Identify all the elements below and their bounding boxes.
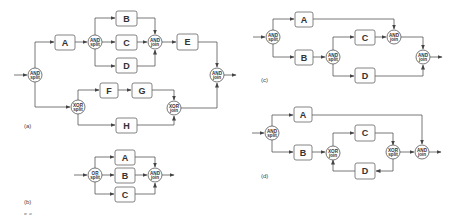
edge xyxy=(375,133,393,145)
task-b-B: B xyxy=(115,168,135,183)
edge xyxy=(78,114,115,125)
task-a-B: B xyxy=(116,11,137,26)
task-label: E xyxy=(184,37,190,47)
edge xyxy=(401,37,423,49)
edge xyxy=(313,19,394,29)
task-label: A xyxy=(301,15,308,25)
task-d-A: A xyxy=(294,107,312,122)
gateway-xor-split: XORsplit xyxy=(386,145,400,159)
gateway-and-join: ANDjoin xyxy=(387,30,401,44)
edge xyxy=(95,157,114,168)
task-c-C: C xyxy=(355,30,375,45)
gateway-role: split xyxy=(30,75,40,80)
task-c-D: D xyxy=(355,68,375,83)
edge xyxy=(375,65,423,76)
gateway-role: split xyxy=(388,152,398,157)
task-b-C: C xyxy=(115,187,135,202)
gateway-and-join: ANDjoin xyxy=(415,145,429,159)
gateway-xor-split: XORsplit xyxy=(71,100,85,114)
panel-b: A B C ORsplit ANDjoin (b) xyxy=(24,150,174,205)
edge xyxy=(35,82,70,107)
edge xyxy=(333,160,355,171)
edge xyxy=(333,64,354,76)
gateway-or-split: ORsplit xyxy=(88,168,102,182)
task-d-D: D xyxy=(355,163,375,179)
edge xyxy=(135,183,155,194)
edge xyxy=(137,50,155,66)
task-label: F xyxy=(106,86,112,96)
task-label: D xyxy=(362,71,369,81)
task-a-G: G xyxy=(132,83,152,98)
gateway-role: split xyxy=(73,107,83,112)
edge xyxy=(135,157,155,167)
edge xyxy=(273,19,294,30)
task-a-C: C xyxy=(116,35,137,50)
gateway-and-join: ANDjoin xyxy=(210,68,224,82)
task-label: H xyxy=(123,121,130,131)
edge xyxy=(137,18,155,34)
task-a-E: E xyxy=(177,34,198,50)
panel-label-c: (c) xyxy=(261,77,268,83)
gateway-role: join xyxy=(389,37,398,42)
gateway-and-join: ANDjoin xyxy=(416,50,430,64)
edge xyxy=(272,140,293,152)
gateway-role: split xyxy=(90,175,100,180)
gateway-and-split: ANDsplit xyxy=(28,68,42,82)
panel-label-a: (a) xyxy=(24,123,31,129)
gateway-role: split xyxy=(267,133,277,138)
task-a-A: A xyxy=(55,35,75,50)
workflow-patterns-figure: A B C D E F G H ANDsplit ANDsplit ANDjoi… xyxy=(0,0,449,215)
gateway-xor-join: XORjoin xyxy=(326,146,340,160)
gateway-and-join: ANDjoin xyxy=(148,35,162,49)
task-label: D xyxy=(362,166,369,176)
task-d-B: B xyxy=(294,145,312,160)
task-a-H: H xyxy=(116,118,137,133)
task-label: B xyxy=(301,53,308,63)
task-a-D: D xyxy=(116,58,137,73)
gateway-role: join xyxy=(212,75,221,80)
task-c-A: A xyxy=(295,12,313,27)
edges-c xyxy=(253,19,442,76)
edge xyxy=(181,83,217,108)
edge xyxy=(273,44,294,57)
gateway-xor-join: XORjoin xyxy=(167,101,181,115)
task-label: C xyxy=(123,38,130,48)
task-label: B xyxy=(122,171,129,181)
task-label: A xyxy=(62,38,69,48)
edge xyxy=(198,42,217,67)
panel-c: A B C D ANDsplit ANDsplit ANDjoin ANDjoi… xyxy=(253,12,442,83)
gateway-role: join xyxy=(150,175,159,180)
task-label: C xyxy=(122,190,129,200)
edge xyxy=(152,90,174,100)
gateway-role: split xyxy=(268,37,278,42)
edge xyxy=(95,182,114,194)
task-label: B xyxy=(123,14,130,24)
task-label: C xyxy=(362,128,369,138)
gateway-role: join xyxy=(169,108,178,113)
task-label: G xyxy=(138,86,145,96)
gateway-role: join xyxy=(150,42,159,47)
edge xyxy=(35,42,54,68)
panel-a: A B C D E F G H ANDsplit ANDsplit ANDjoi… xyxy=(14,11,236,133)
task-label: A xyxy=(122,153,129,163)
gateway-and-split: ANDsplit xyxy=(266,30,280,44)
edge xyxy=(137,116,174,125)
task-a-F: F xyxy=(100,83,118,98)
task-label: B xyxy=(300,148,307,158)
gateway-role: join xyxy=(417,152,426,157)
edge xyxy=(95,18,115,35)
task-label: A xyxy=(300,110,307,120)
task-b-A: A xyxy=(115,150,135,165)
edges-d xyxy=(252,115,441,171)
task-label: D xyxy=(123,61,130,71)
gateway-role: join xyxy=(328,153,337,158)
gateway-and-split: ANDsplit xyxy=(326,50,340,64)
panel-label-b: (b) xyxy=(24,199,31,205)
gateway-role: join xyxy=(418,57,427,62)
gateway-and-join: ANDjoin xyxy=(148,168,162,182)
edge xyxy=(333,133,354,146)
gateway-role: split xyxy=(328,57,338,62)
gateway-and-split: ANDsplit xyxy=(265,126,279,140)
edge xyxy=(376,159,393,171)
task-d-C: C xyxy=(355,125,375,141)
